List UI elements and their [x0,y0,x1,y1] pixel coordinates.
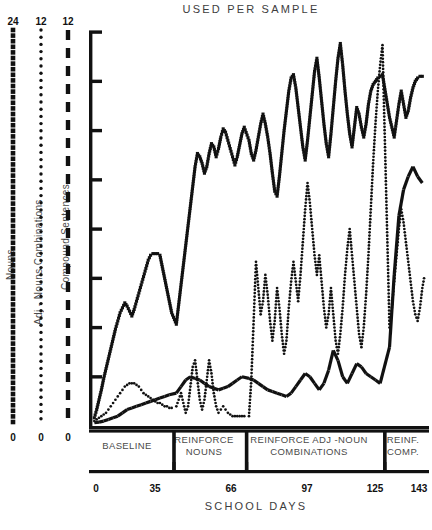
data-point-nouns [94,411,97,414]
data-segment-dash [277,393,282,395]
data-point-adj-nouns [371,185,374,188]
legend-marker-nouns [11,207,16,212]
data-point-adj-nouns [280,329,283,332]
data-point-adj-nouns [361,336,364,339]
data-point-adj-nouns [331,300,334,303]
data-point-adj-nouns [252,327,255,330]
data-point-adj-nouns [297,297,300,300]
data-point-adj-nouns [383,132,386,135]
data-point-adj-nouns [383,122,386,125]
legend-marker-adj-nouns [39,396,42,399]
legend-marker-adj-nouns [39,266,42,269]
data-point-adj-nouns [381,57,384,60]
data-point-adj-nouns [253,292,256,295]
data-point-adj-nouns [302,231,305,234]
data-point-adj-nouns [369,221,372,224]
data-segment-dash [319,383,324,390]
data-point-adj-nouns [325,326,328,329]
data-point-nouns [266,136,269,139]
legend-marker-adj-nouns [39,57,42,60]
data-point-adj-nouns [381,47,384,50]
legend-marker-adj-nouns [39,64,42,67]
data-point-adj-nouns [280,333,283,336]
legend-marker-nouns [11,375,16,380]
legend-marker-nouns [11,263,16,268]
data-point-adj-nouns [377,86,380,89]
legend-marker-nouns [11,28,16,33]
data-point-adj-nouns [195,372,198,375]
data-point-adj-nouns [258,293,261,296]
data-point-adj-nouns [286,320,289,323]
data-segment-dash [418,176,423,183]
data-point-adj-nouns [274,316,277,319]
data-point-adj-nouns [147,395,150,398]
data-point-adj-nouns [384,159,387,162]
data-point-adj-nouns [287,310,290,313]
data-point-adj-nouns [401,215,404,218]
data-point-adj-nouns [417,316,420,319]
legend-marker-nouns [11,56,16,61]
data-point-adj-nouns [384,149,387,152]
data-point-adj-nouns [381,44,384,47]
data-point-adj-nouns [408,270,411,273]
data-point-adj-nouns [327,313,330,316]
data-point-adj-nouns [286,326,289,329]
data-point-adj-nouns [351,257,354,260]
data-point-adj-nouns [314,257,317,260]
data-point-adj-nouns [277,293,280,296]
data-point-adj-nouns [383,108,386,111]
data-point-adj-nouns [357,329,360,332]
data-point-adj-nouns [382,91,385,94]
data-point-adj-nouns [300,267,303,270]
data-point-nouns [141,278,144,281]
data-point-adj-nouns [328,303,331,306]
data-point-adj-nouns [257,283,260,286]
data-point-adj-nouns [422,283,425,286]
data-point-adj-nouns [156,402,159,405]
data-point-adj-nouns [326,320,329,323]
data-point-adj-nouns [323,313,326,316]
data-segment-dash [366,373,371,376]
data-point-adj-nouns [269,323,272,326]
data-point-nouns [115,322,118,325]
data-point-adj-nouns [295,287,298,290]
data-point-adj-nouns [353,283,356,286]
data-point-adj-nouns [227,412,230,415]
data-point-adj-nouns [419,300,422,303]
data-segment-dash [310,377,315,384]
data-point-adj-nouns [376,96,379,99]
data-point-adj-nouns [385,207,388,210]
data-point-adj-nouns [357,320,360,323]
data-point-adj-nouns [249,392,252,395]
data-point-adj-nouns [168,407,171,410]
data-segment-dash [108,418,113,420]
data-segment-dash [361,367,366,374]
data-point-nouns [226,139,229,142]
data-point-adj-nouns [368,228,371,231]
data-point-adj-nouns [416,320,419,323]
data-point-adj-nouns [387,299,390,302]
data-segment-dash [233,380,238,383]
data-point-adj-nouns [332,313,335,316]
data-point-adj-nouns [180,395,183,398]
data-point-adj-nouns [212,392,215,395]
data-point-nouns [114,328,117,331]
data-point-adj-nouns [407,257,410,260]
data-point-adj-nouns [383,102,386,105]
data-point-nouns [232,158,235,161]
legend-marker-nouns [11,84,16,89]
legend-marker-nouns [11,325,16,330]
data-point-adj-nouns [203,398,206,401]
data-point-adj-nouns [302,234,305,237]
data-point-nouns [144,270,147,273]
data-point-adj-nouns [386,258,389,261]
legend-marker-adj-nouns [39,367,42,370]
data-point-adj-nouns [123,385,126,388]
data-point-nouns [226,136,229,139]
data-point-adj-nouns [222,405,225,408]
data-point-adj-nouns [275,303,278,306]
data-point-adj-nouns [310,218,313,221]
data-point-adj-nouns [255,267,258,270]
legend-marker-compound [66,408,70,418]
data-point-adj-nouns [355,303,358,306]
